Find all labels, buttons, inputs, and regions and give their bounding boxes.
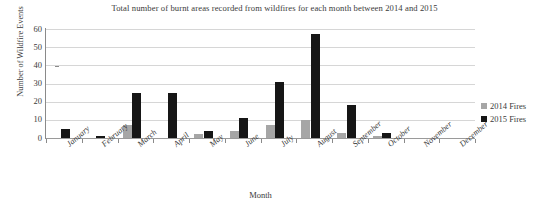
bar-july-2015 (275, 82, 284, 138)
x-axis-tick-labels: JanuaryFebruaryMarchAprilMayJuneJulyAugu… (46, 140, 475, 186)
chart-legend: 2014 Fires2015 Fires (481, 100, 547, 126)
bar-group-april (153, 29, 189, 138)
bar-august-2015 (311, 34, 320, 138)
bar-group-august (296, 29, 332, 138)
y-tick-label: 20 (14, 97, 42, 106)
plot-area (46, 29, 475, 138)
bar-group-june (225, 29, 261, 138)
bar-july-2014 (266, 125, 275, 138)
bar-august-2014 (301, 120, 310, 138)
legend-item-2014[interactable]: 2014 Fires (481, 100, 547, 112)
y-tick-label: 60 (14, 25, 42, 34)
legend-label: 2014 Fires (490, 101, 526, 111)
bar-group-july (261, 29, 297, 138)
y-tick-label: 30 (14, 79, 42, 88)
bar-group-may (189, 29, 225, 138)
legend-swatch-icon (481, 103, 487, 109)
x-tick-mark (475, 139, 476, 143)
wildfire-bar-chart: Total number of burnt areas recorded fro… (0, 0, 549, 213)
legend-label: 2015 Fires (490, 114, 526, 124)
chart-title: Total number of burnt areas recorded fro… (0, 3, 549, 13)
bar-group-september (332, 29, 368, 138)
y-axis-tick-labels: 0102030405060 (10, 29, 42, 138)
bar-june-2014 (230, 131, 239, 138)
bar-march-2015 (132, 93, 141, 138)
bar-june-2015 (239, 118, 248, 138)
y-tick-label: 0 (14, 134, 42, 143)
bar-group-november (404, 29, 440, 138)
y-tick-label: 40 (14, 61, 42, 70)
bar-october-2014 (373, 136, 382, 138)
y-tick-label: 10 (14, 115, 42, 124)
bar-group-january (46, 29, 82, 138)
bar-group-february (82, 29, 118, 138)
bar-september-2015 (347, 105, 356, 138)
x-axis-title: Month (46, 190, 475, 200)
bars-layer (46, 29, 475, 138)
bar-may-2015 (204, 131, 213, 138)
y-tick-label: 50 (14, 43, 42, 52)
bar-january-2015 (61, 129, 70, 138)
bar-april-2015 (168, 93, 177, 138)
legend-swatch-icon (481, 116, 487, 122)
legend-item-2015[interactable]: 2015 Fires (481, 113, 547, 125)
bar-may-2014 (194, 134, 203, 138)
